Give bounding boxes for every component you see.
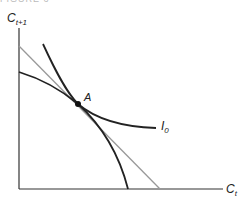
indifference-curve — [43, 44, 156, 128]
intertemporal-choice-diagram — [0, 0, 247, 201]
indifference-curve-label: I0 — [161, 120, 169, 135]
point-a-label: A — [84, 92, 91, 103]
y-axis-label: Ct+1 — [7, 12, 27, 27]
x-axis-label: Ct — [226, 183, 237, 198]
production-possibility-curve — [19, 72, 128, 189]
budget-line — [19, 46, 160, 189]
tangency-point — [75, 101, 81, 107]
